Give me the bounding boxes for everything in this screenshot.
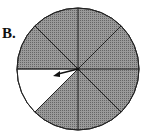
spinner-diagram: [0, 0, 143, 133]
